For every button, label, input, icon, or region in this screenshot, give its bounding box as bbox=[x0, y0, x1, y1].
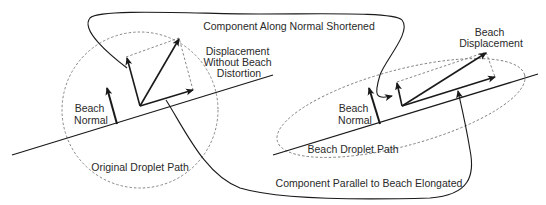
right-panel: Beach Normal Beach Displacement Beach Dr… bbox=[268, 26, 538, 178]
left-component-parallelogram bbox=[126, 38, 193, 90]
parallel-elongated-label: Component Parallel to Beach Elongated bbox=[276, 177, 463, 189]
left-panel: Beach Normal Displacement Without Beach … bbox=[12, 32, 275, 188]
left-normal-component-arrow bbox=[127, 58, 140, 106]
beach-distortion-diagram: Beach Normal Displacement Without Beach … bbox=[0, 0, 546, 205]
right-beach-normal-label: Beach Normal bbox=[338, 102, 372, 126]
displacement-without-distortion-label: Displacement Without Beach Distortion bbox=[203, 45, 274, 79]
beach-droplet-path-ellipse bbox=[268, 38, 535, 178]
left-beach-line bbox=[12, 75, 273, 155]
beach-displacement-label: Beach Displacement bbox=[459, 26, 523, 49]
beach-droplet-path-label: Beach Droplet Path bbox=[307, 143, 398, 155]
original-droplet-path-label: Original Droplet Path bbox=[91, 161, 189, 173]
right-normal-component-arrow bbox=[397, 83, 402, 106]
normal-shortened-label: Component Along Normal Shortened bbox=[203, 20, 375, 32]
left-beach-normal-label: Beach Normal bbox=[74, 102, 108, 126]
left-beach-normal-arrow bbox=[107, 88, 117, 124]
